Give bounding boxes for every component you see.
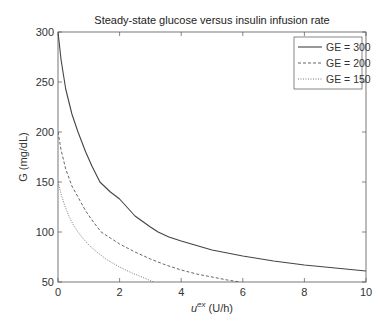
x-tick-label: 2 bbox=[117, 286, 123, 298]
y-tick-label: 300 bbox=[36, 26, 54, 38]
x-tick-label: 8 bbox=[301, 286, 307, 298]
x-tick-label: 0 bbox=[55, 286, 61, 298]
y-tick-label: 200 bbox=[36, 126, 54, 138]
y-tick-label: 100 bbox=[36, 226, 54, 238]
chart: Steady-state glucose versus insulin infu… bbox=[0, 0, 384, 323]
x-tick-label: 4 bbox=[178, 286, 184, 298]
x-axis-label-unit: (U/h) bbox=[206, 302, 234, 314]
legend-label: GE = 150 bbox=[326, 73, 371, 85]
y-tick-label: 150 bbox=[36, 176, 54, 188]
x-axis-label: uex (U/h) bbox=[191, 300, 233, 314]
y-axis-label: G (mg/dL) bbox=[17, 132, 29, 182]
series-line-dotted bbox=[58, 182, 154, 282]
chart-title: Steady-state glucose versus insulin infu… bbox=[94, 14, 329, 26]
x-tick-label: 6 bbox=[240, 286, 246, 298]
legend: GE = 300GE = 200GE = 150 bbox=[294, 37, 371, 89]
y-tick-label: 50 bbox=[42, 276, 54, 288]
y-tick-label: 250 bbox=[36, 76, 54, 88]
legend-label: GE = 300 bbox=[326, 41, 371, 53]
x-tick-label: 10 bbox=[360, 286, 372, 298]
series-line-dashed bbox=[58, 132, 240, 282]
legend-label: GE = 200 bbox=[326, 57, 371, 69]
